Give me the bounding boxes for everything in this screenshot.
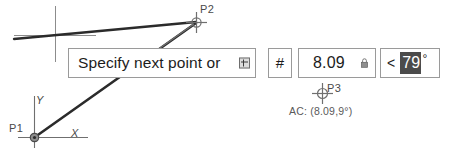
point-label-p1: P1	[9, 122, 23, 134]
coordinate-readout: AC: (8.09,9°)	[289, 105, 352, 117]
point-marker-p2	[186, 12, 207, 33]
point-label-p2: P2	[200, 3, 214, 15]
cad-viewport: P2 P3 P1 Y X AC: (8.09,9°) Specify next …	[0, 0, 452, 155]
tooltip-leader-line	[160, 24, 194, 48]
ucs-axes-icon	[18, 96, 88, 148]
lock-icon	[361, 58, 368, 68]
dynamic-input-prompt-box[interactable]: Specify next point or	[68, 48, 256, 78]
segment-p1-p2	[35, 23, 196, 137]
distance-value: 8.09	[299, 54, 345, 72]
ucs-x-axis-label: X	[71, 127, 78, 139]
angle-value[interactable]: 79	[400, 52, 421, 74]
prompt-label: Specify next point or	[69, 54, 221, 72]
relative-coordinate-hash-icon: #	[276, 55, 284, 70]
angle-unit: °	[422, 52, 427, 66]
point-label-p3: P3	[327, 82, 341, 94]
expand-options-icon[interactable]	[239, 58, 250, 69]
point-marker-p1	[30, 133, 38, 141]
rubberband-line	[14, 22, 196, 39]
angle-input-field[interactable]: < 79 °	[380, 48, 440, 78]
coordinate-mode-field[interactable]: #	[268, 48, 292, 78]
angle-prefix: <	[381, 55, 395, 71]
distance-input-field[interactable]: 8.09	[298, 48, 376, 78]
ucs-y-axis-label: Y	[36, 94, 43, 106]
